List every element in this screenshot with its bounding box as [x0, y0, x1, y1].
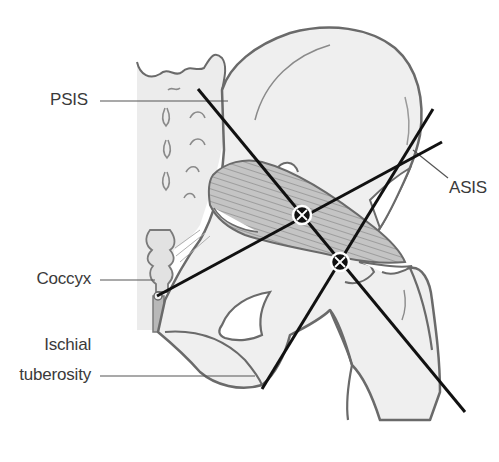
ischial-label-line1: Ischial	[18, 335, 91, 355]
psis-label: PSIS	[50, 90, 88, 110]
intersection-marker-lower	[331, 253, 349, 271]
coccyx-label: Coccyx	[34, 269, 91, 289]
diagram-canvas	[0, 0, 499, 462]
pelvis-diagram: PSIS ASIS Coccyx Ischial tuberosity	[0, 0, 499, 462]
intersection-marker-upper	[293, 206, 311, 224]
asis-label: ASIS	[449, 178, 487, 198]
ischial-label-line2: tuberosity	[18, 365, 91, 385]
